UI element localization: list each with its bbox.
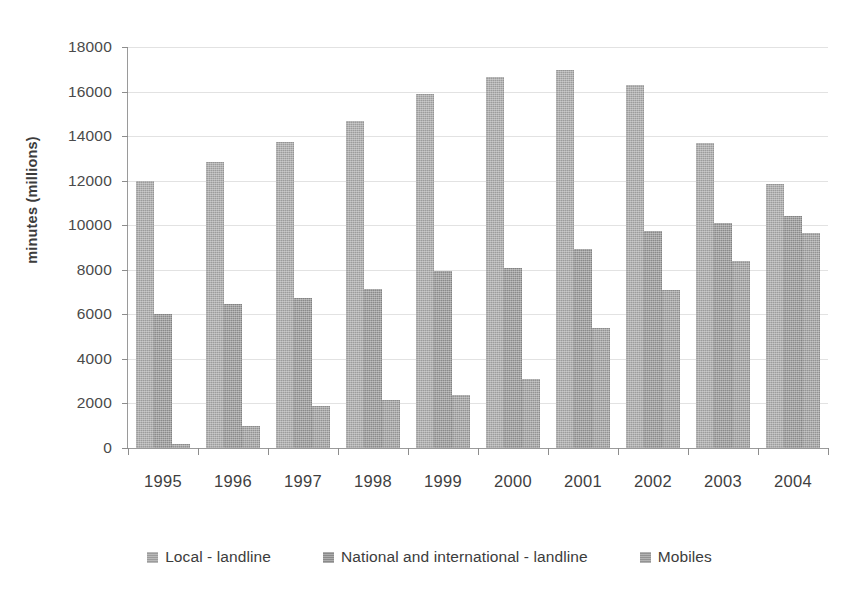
x-axis-tick	[268, 448, 269, 455]
x-axis-tick	[478, 448, 479, 455]
legend-item[interactable]: National and international - landline	[323, 548, 588, 566]
bar-chart-figure: minutes (millions) 020004000600080001000…	[0, 0, 859, 597]
bar	[766, 184, 784, 448]
y-axis-tick-label: 10000	[68, 216, 112, 234]
bar	[242, 426, 260, 448]
bar	[732, 261, 750, 448]
y-axis-tick-label: 6000	[77, 305, 112, 323]
bar	[206, 162, 224, 448]
y-axis-tick-label: 2000	[77, 394, 112, 412]
x-axis-tick	[688, 448, 689, 455]
bar	[434, 271, 452, 448]
legend-label: Mobiles	[658, 548, 712, 566]
legend-item[interactable]: Mobiles	[640, 548, 712, 566]
x-axis-label: 2001	[564, 472, 602, 491]
bar	[556, 70, 574, 448]
legend-swatch-icon	[147, 552, 158, 563]
bar	[626, 85, 644, 448]
y-axis-tick-label: 4000	[77, 350, 112, 368]
x-axis-tick	[758, 448, 759, 455]
bar	[154, 314, 172, 448]
bar	[276, 142, 294, 448]
x-axis-tick	[548, 448, 549, 455]
bar-group	[408, 47, 478, 448]
bar-group	[478, 47, 548, 448]
bar	[346, 121, 364, 448]
x-axis-label: 1996	[214, 472, 252, 491]
bar	[714, 223, 732, 448]
legend-item[interactable]: Local - landline	[147, 548, 271, 566]
x-axis-tick	[198, 448, 199, 455]
plot-area: 0200040006000800010000120001400016000180…	[128, 47, 828, 448]
bar	[696, 143, 714, 448]
bar	[784, 216, 802, 448]
bar	[312, 406, 330, 448]
bar	[574, 249, 592, 448]
bar-group	[758, 47, 828, 448]
legend-label: National and international - landline	[341, 548, 588, 566]
bar	[504, 268, 522, 448]
bar	[364, 289, 382, 448]
bar-group	[268, 47, 338, 448]
x-axis-label: 2003	[704, 472, 742, 491]
bar	[662, 290, 680, 448]
y-axis-tick-label: 0	[103, 439, 112, 457]
legend-label: Local - landline	[165, 548, 271, 566]
x-axis-tick	[828, 448, 829, 455]
bar	[522, 379, 540, 448]
bar-group	[338, 47, 408, 448]
x-axis-label: 2002	[634, 472, 672, 491]
y-axis-tick-label: 16000	[68, 83, 112, 101]
bar	[416, 94, 434, 448]
bar-group	[548, 47, 618, 448]
bar-group	[198, 47, 268, 448]
bar-group	[618, 47, 688, 448]
bar	[224, 304, 242, 448]
bar	[136, 181, 154, 448]
x-axis-tick	[618, 448, 619, 455]
y-axis-title: minutes (millions)	[24, 105, 40, 295]
x-axis-tick	[128, 448, 129, 455]
x-axis-label: 2000	[494, 472, 532, 491]
y-axis-tick-label: 8000	[77, 261, 112, 279]
chart-legend: Local - landlineNational and internation…	[0, 548, 859, 566]
y-axis-tick-label: 12000	[68, 172, 112, 190]
x-axis-label: 1999	[424, 472, 462, 491]
bar-group	[128, 47, 198, 448]
x-axis-label: 2004	[774, 472, 812, 491]
bar	[592, 328, 610, 448]
x-axis-label: 1995	[144, 472, 182, 491]
bar	[452, 395, 470, 448]
x-axis-labels: 1995199619971998199920002001200220032004	[128, 472, 828, 502]
legend-swatch-icon	[323, 552, 334, 563]
x-axis-label: 1997	[284, 472, 322, 491]
bar	[382, 400, 400, 448]
bar	[802, 233, 820, 448]
bar-group	[688, 47, 758, 448]
y-axis-tick-label: 18000	[68, 38, 112, 56]
bar	[294, 298, 312, 448]
x-axis-tick	[408, 448, 409, 455]
bar	[644, 231, 662, 448]
bar	[486, 77, 504, 448]
bar	[172, 444, 190, 448]
chart-title	[0, 0, 859, 2]
x-axis-tick	[338, 448, 339, 455]
y-axis-tick-label: 14000	[68, 127, 112, 145]
x-axis-label: 1998	[354, 472, 392, 491]
legend-swatch-icon	[640, 552, 651, 563]
